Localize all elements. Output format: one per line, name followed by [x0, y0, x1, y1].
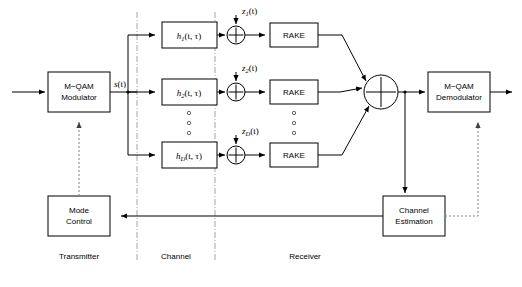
section-label-channel: Channel	[161, 252, 191, 261]
junction-dot-split	[126, 90, 129, 93]
h1-label: h1(t, τ)	[177, 31, 201, 42]
wire-channel-estimation-to-demodulator	[445, 122, 478, 216]
noise-label-z1: z1(t)	[241, 6, 257, 17]
demodulator-label-line2: Demodulator	[436, 93, 482, 102]
block-demodulator	[428, 72, 490, 112]
noise-label-z2: z2(t)	[241, 63, 257, 74]
wire-split-to-hD	[128, 92, 155, 155]
rake1-label: RAKE	[283, 31, 305, 40]
block-modulator	[48, 72, 110, 112]
wire-rakeD-to-combiner	[318, 106, 369, 155]
rakeD-label: RAKE	[283, 151, 305, 160]
h2-label: h2(t, τ)	[177, 88, 201, 99]
tap-ellipsis	[187, 111, 190, 134]
rake-ellipsis	[292, 111, 295, 134]
diagram-canvas: M−QAM Modulator s(t) h1(t, τ) h2(t, τ) h…	[0, 0, 522, 287]
mode-control-label-line2: Control	[66, 217, 92, 226]
block-mode-control	[48, 196, 110, 236]
section-label-receiver: Receiver	[289, 252, 321, 261]
rake2-label: RAKE	[283, 88, 305, 97]
channel-estimation-label-line2: Estimation	[395, 217, 432, 226]
channel-estimation-label-line1: Channel	[399, 206, 429, 215]
noise-label-zD: zD(t)	[241, 126, 259, 137]
hD-label: hD(t, τ)	[176, 151, 202, 162]
block-channel-estimation	[383, 196, 445, 236]
modulator-label-line1: M−QAM	[64, 82, 94, 91]
mode-control-label-line1: Mode	[69, 206, 90, 215]
demodulator-label-line1: M−QAM	[444, 82, 474, 91]
block-diagram-figure: M−QAM Modulator s(t) h1(t, τ) h2(t, τ) h…	[0, 0, 522, 287]
signal-label-st: s(t)	[114, 79, 126, 89]
section-label-transmitter: Transmitter	[59, 252, 99, 261]
wire-split-to-h1	[128, 35, 155, 92]
modulator-label-line2: Modulator	[61, 93, 97, 102]
wire-rake2-to-combiner	[318, 88, 362, 92]
wire-rake1-to-combiner	[318, 35, 366, 81]
